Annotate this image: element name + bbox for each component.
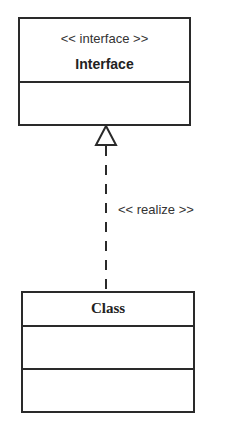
- interface-name: Interface: [20, 56, 189, 72]
- interface-box[interactable]: << interface >> Interface: [18, 17, 191, 126]
- class-box[interactable]: Class: [21, 291, 195, 413]
- interface-stereotype: << interface >>: [20, 31, 189, 46]
- class-attributes-compartment: [23, 325, 193, 369]
- class-name-compartment: Class: [23, 293, 193, 326]
- class-name: Class: [23, 300, 193, 317]
- interface-name-compartment: << interface >> Interface: [20, 19, 189, 83]
- realize-label: << realize >>: [118, 202, 194, 217]
- hollow-triangle-arrowhead-icon: [96, 126, 116, 145]
- class-operations-compartment: [23, 368, 193, 411]
- interface-members-compartment: [20, 81, 189, 124]
